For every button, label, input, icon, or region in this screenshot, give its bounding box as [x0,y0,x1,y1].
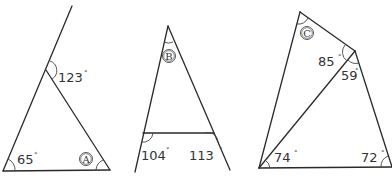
figure-c-upper-right-arc [342,45,347,61]
degree-symbol: ° [84,69,88,77]
degree-symbol: ° [338,53,342,61]
degree-symbol: ° [381,149,385,157]
figure-c-upper-right-label: 85 [318,54,335,69]
figure-a-exterior-angle-label: 123 [58,70,83,85]
figure-c-base [259,167,392,168]
figure-c-bottom-left-arc [265,160,270,168]
figure-b-left-exterior-label: 104 [141,148,166,163]
figure-c-unknown-label: C [303,28,311,39]
figure-c-lower-right-arc [348,60,359,63]
figure-a-right-side [46,70,110,170]
figure-c-bottom-right-arc [381,156,388,167]
degree-symbol: ° [294,149,298,157]
figure-b-right-exterior-label: 113 [189,148,214,163]
figure-b: B 104 ° 113 ° [135,26,230,172]
figure-b-right-exterior-arc [205,133,218,142]
degree-symbol: ° [219,146,223,154]
geometry-diagram: 123 ° 65 ° A B 104 ° 113 ° [0,0,392,180]
degree-symbol: ° [166,146,170,154]
figure-a-right-angle-arc [96,160,103,170]
figure-c-bottom-right-label: 72 [361,150,378,165]
figure-a-exterior-angle-arc [50,61,57,79]
figure-b-unknown-label: B [165,51,172,62]
degree-symbol: ° [34,151,38,159]
figure-a-left-side-extended [3,6,72,171]
figure-b-unknown-marker: B [163,50,176,63]
degree-symbol: ° [355,67,359,75]
figure-a-unknown-label: A [81,154,90,165]
figure-a-left-angle-arc [8,159,15,171]
figure-a-left-angle-label: 65 [17,152,34,167]
figure-a-unknown-marker: A [80,153,93,166]
figure-b-apex-angle-arc [164,42,173,43]
figure-c-unknown-marker: C [301,27,314,40]
figure-c-left-side [259,12,300,168]
figure-a: 123 ° 65 ° A [3,6,110,171]
figure-c: C 85 ° 59 ° 74 ° 72 ° [259,12,392,168]
figure-c-bottom-left-label: 74 [274,150,291,165]
figure-a-base [3,170,110,171]
